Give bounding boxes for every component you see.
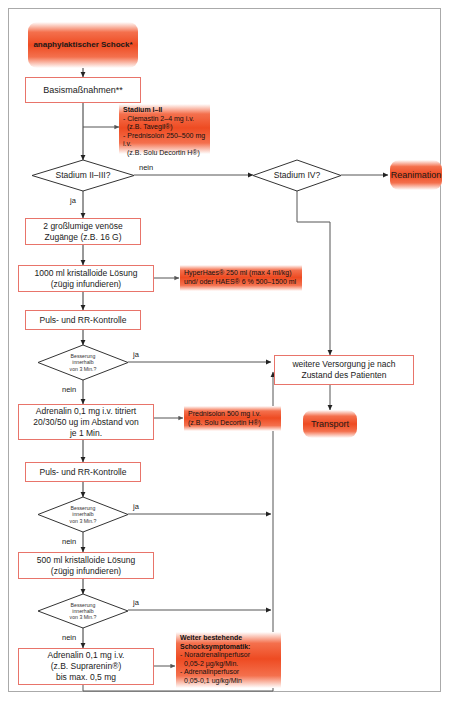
edge-label-ja-4: ja [133,598,139,607]
flowchart-page: anaphylaktischer Schock* Basismaßnahmen*… [0,0,451,712]
node-venoese-zugaenge[interactable]: 2 großlumige venöse Zugänge (z.B. 16 G) [25,218,141,245]
node-start-label: anaphylaktischer Schock* [33,40,132,50]
node-basismassnahmen[interactable]: Basismaßnahmen** [25,77,141,103]
annotation-stadium-i-ii-heading: Stadium I–II [123,106,206,115]
annotation-hyperhaes-line-0: HyperHaes® 250 ml (max 4 ml/kg) [184,269,298,278]
annotation-prednisolon-line-0: Prednisolon 500 mg i.v. [188,410,277,419]
decision-besserung-3-line-3: von 3 Min.? [70,614,97,620]
edge-label-ja-1: ja [70,196,76,205]
node-weitere-versorgung-line-2: Zustand des Patienten [292,370,395,381]
node-adrenalin-titriert[interactable]: Adrenalin 0,1 mg i.v. titriert 20/30/50 … [18,404,154,440]
node-reanimation[interactable]: Reanimation [390,160,442,190]
annotation-hyperhaes: HyperHaes® 250 ml (max 4 ml/kg) und/ ode… [180,265,302,291]
edge-label-nein-1: nein [139,163,153,172]
decision-besserung-1-line-3: von 3 Min.? [70,366,97,372]
decision-besserung-3[interactable]: Besserung innerhalb von 3 Min.? [38,594,128,628]
node-venoese-zugaenge-line-1: 2 großlumige venöse [43,221,122,232]
node-adrenalin-max-line-2: (z.B. Suprarenin®) [48,661,125,672]
annotation-stadium-i-ii-line-0: - Clemastin 2–4 mg i.v. [123,115,206,124]
annotation-schocksymptomatik-heading-1: Weiter bestehende [180,634,277,643]
node-kristalloide-500-line-2: (zügig infundieren) [37,566,135,577]
node-weitere-versorgung[interactable]: weitere Versorgung je nach Zustand des P… [274,355,414,385]
node-puls-rr-kontrolle-1-label: Puls- und RR-Kontrolle [40,315,127,326]
edge-label-nein-3: nein [62,537,76,546]
node-transport[interactable]: Transport [303,410,357,438]
edge-label-nein-4: nein [62,633,76,642]
node-puls-rr-kontrolle-2[interactable]: Puls- und RR-Kontrolle [25,462,141,482]
node-weitere-versorgung-line-1: weitere Versorgung je nach [292,359,395,370]
annotation-schocksymptomatik-line-1: 0,05-2 µg/kg/Min. [180,660,277,669]
annotation-schocksymptomatik-line-2: - Adrenalinperfusor [180,668,277,677]
decision-besserung-2-line-2: innerhalb [70,511,97,517]
annotation-prednisolon-line-1: (z.B. Solu Decortin H®) [188,419,277,428]
node-kristalloide-1000-line-1: 1000 ml kristalloide Lösung [34,268,137,279]
decision-besserung-3-line-1: Besserung [70,602,97,608]
annotation-schocksymptomatik-line-3: 0,05-0,1 ug/kg/Min [180,677,277,686]
node-start[interactable]: anaphylaktischer Schock* [28,22,138,68]
node-kristalloide-500[interactable]: 500 ml kristalloide Lösung (zügig infund… [18,552,154,579]
annotation-hyperhaes-line-1: und/ oder HAES® 6 % 500–1500 ml [184,278,298,287]
node-venoese-zugaenge-line-2: Zugänge (z.B. 16 G) [43,232,122,243]
node-puls-rr-kontrolle-2-label: Puls- und RR-Kontrolle [40,467,127,478]
annotation-schocksymptomatik-line-0: - Noradrenalinperfusor [180,651,277,660]
decision-besserung-2-line-3: von 3 Min.? [70,518,97,524]
node-puls-rr-kontrolle-1[interactable]: Puls- und RR-Kontrolle [25,310,141,330]
node-adrenalin-titriert-line-3: je 1 Min. [33,428,138,439]
decision-besserung-1[interactable]: Besserung innerhalb von 3 Min.? [38,345,128,380]
annotation-schocksymptomatik: Weiter bestehende Schocksymptomatik: - N… [176,632,281,688]
edge-label-ja-3: ja [133,502,139,511]
node-adrenalin-max[interactable]: Adrenalin 0,1 mg i.v. (z.B. Suprarenin®)… [18,648,154,685]
node-kristalloide-1000[interactable]: 1000 ml kristalloide Lösung (zügig infun… [18,265,154,292]
node-adrenalin-max-line-3: bis max. 0,5 mg [48,672,125,683]
node-reanimation-label: Reanimation [391,170,442,180]
annotation-schocksymptomatik-heading-2: Schocksymptomatik: [180,643,277,652]
node-adrenalin-titriert-line-1: Adrenalin 0,1 mg i.v. titriert [33,406,138,417]
annotation-stadium-i-ii-line-3: (z.B. Solu Decortin H®) [123,149,206,158]
node-kristalloide-500-line-1: 500 ml kristalloide Lösung [37,555,135,566]
annotation-stadium-i-ii-line-1: (z.B. Tavegil®) [123,123,206,132]
decision-stadium-ii-iii[interactable]: Stadium II–III? [32,160,134,191]
edge-label-nein-2: nein [62,385,76,394]
annotation-prednisolon: Prednisolon 500 mg i.v. (z.B. Solu Decor… [184,406,281,431]
decision-besserung-2[interactable]: Besserung innerhalb von 3 Min.? [38,497,128,532]
decision-stadium-ii-iii-label: Stadium II–III? [56,170,111,181]
annotation-stadium-i-ii: Stadium I–II - Clemastin 2–4 mg i.v. (z.… [119,104,210,154]
node-basismassnahmen-label: Basismaßnahmen** [43,85,123,96]
decision-besserung-1-line-2: innerhalb [70,359,97,365]
edge-label-ja-2: ja [133,350,139,359]
decision-stadium-iv-label: Stadium IV? [274,170,320,181]
annotation-stadium-i-ii-line-2: - Prednisolon 250–500 mg i.v. [123,132,206,149]
node-transport-label: Transport [311,419,349,429]
node-adrenalin-titriert-line-2: 20/30/50 ug im Abstand von [33,417,138,428]
node-adrenalin-max-line-1: Adrenalin 0,1 mg i.v. [48,650,125,661]
decision-stadium-iv[interactable]: Stadium IV? [253,160,341,191]
node-kristalloide-1000-line-2: (zügig infundieren) [34,279,137,290]
